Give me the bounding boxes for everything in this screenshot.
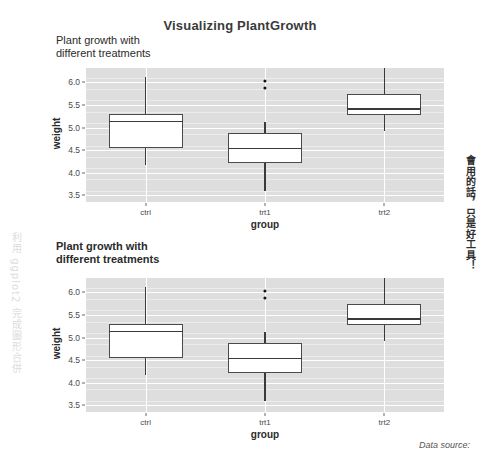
- x-tick-mark: [384, 413, 385, 416]
- x-tick-mark: [265, 203, 266, 206]
- y-tick-label: 3.5: [58, 190, 80, 200]
- box-trt2: [347, 304, 421, 325]
- box-ctrl: [109, 324, 183, 357]
- median-line: [109, 121, 183, 123]
- y-tick-mark: [82, 314, 85, 315]
- plot-panel: [86, 278, 444, 412]
- page-title: Visualizing PlantGrowth: [0, 18, 480, 33]
- x-axis-title: group: [86, 429, 444, 440]
- x-tick-label: trt1: [259, 208, 271, 217]
- y-tick-label: 6.0: [58, 287, 80, 297]
- whisker-upper: [145, 287, 146, 324]
- y-axis-title: weight: [51, 104, 62, 164]
- y-tick-mark: [82, 405, 85, 406]
- median-line: [109, 331, 183, 333]
- y-tick-mark: [82, 382, 85, 383]
- y-tick-mark: [82, 104, 85, 105]
- median-line: [228, 358, 302, 360]
- whisker-lower: [384, 115, 385, 131]
- x-tick-label: ctrl: [140, 418, 151, 427]
- y-tick-mark: [82, 127, 85, 128]
- whisker-upper: [264, 332, 265, 343]
- y-tick-mark: [82, 292, 85, 293]
- x-tick-label: trt2: [379, 208, 391, 217]
- x-tick-label: trt2: [379, 418, 391, 427]
- whisker-lower: [264, 373, 265, 401]
- y-tick-label: 4.0: [58, 168, 80, 178]
- whisker-upper: [384, 278, 385, 304]
- chart-top: Plant growth with different treatments3.…: [56, 34, 464, 242]
- chart-bottom: Plant growth with different treatments3.…: [56, 240, 464, 452]
- y-tick-label: 4.0: [58, 378, 80, 388]
- median-line: [228, 148, 302, 150]
- whisker-lower: [145, 358, 146, 375]
- whisker-upper: [264, 122, 265, 133]
- y-tick-mark: [82, 172, 85, 173]
- figure-canvas: Visualizing PlantGrowth Plant growth wit…: [0, 0, 480, 456]
- y-tick-mark: [82, 82, 85, 83]
- y-tick-mark: [82, 150, 85, 151]
- median-line: [347, 318, 421, 320]
- median-line: [347, 108, 421, 110]
- plot-panel: [86, 68, 444, 202]
- y-tick-mark: [82, 337, 85, 338]
- x-tick-mark: [145, 413, 146, 416]
- whisker-lower: [145, 148, 146, 165]
- box-trt2: [347, 94, 421, 115]
- x-tick-label: trt1: [259, 418, 271, 427]
- whisker-upper: [145, 77, 146, 114]
- chart-title: Plant growth with different treatments: [56, 34, 151, 60]
- y-axis-title: weight: [51, 314, 62, 374]
- watermark-left: 利用 ggplot2 完成圖形合併: [8, 232, 23, 374]
- watermark-right: 會用的話，只是好工具！: [462, 155, 477, 271]
- x-tick-mark: [384, 203, 385, 206]
- data-source-caption: Data source:: [419, 440, 470, 450]
- whisker-lower: [384, 325, 385, 341]
- x-tick-label: ctrl: [140, 208, 151, 217]
- y-tick-label: 6.0: [58, 77, 80, 87]
- y-tick-mark: [82, 195, 85, 196]
- y-tick-label: 3.5: [58, 400, 80, 410]
- y-tick-mark: [82, 360, 85, 361]
- chart-title: Plant growth with different treatments: [56, 240, 159, 266]
- box-ctrl: [109, 114, 183, 147]
- x-tick-mark: [145, 203, 146, 206]
- x-tick-mark: [265, 413, 266, 416]
- whisker-lower: [264, 163, 265, 191]
- x-axis-title: group: [86, 219, 444, 230]
- whisker-upper: [384, 68, 385, 94]
